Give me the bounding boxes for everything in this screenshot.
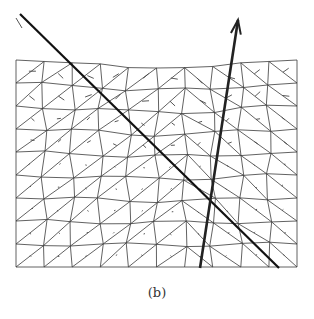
figure-caption: (b) [0,285,314,300]
triangular-mesh [16,60,297,267]
refracted-ray [200,20,238,268]
ray-mesh-diagram [0,0,314,319]
